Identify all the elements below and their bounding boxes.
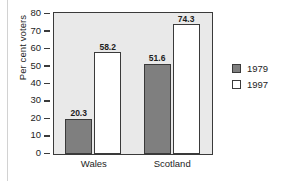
y-axis-tick-label: 50 bbox=[11, 60, 41, 71]
y-axis-tick-mark bbox=[44, 30, 50, 32]
y-axis-tick-label: 40 bbox=[11, 77, 41, 88]
legend-label-1979: 1979 bbox=[247, 63, 268, 74]
figure-left-rule bbox=[7, 0, 8, 181]
x-axis-label-scotland: Scotland bbox=[154, 158, 191, 169]
y-axis-tick-label: 30 bbox=[11, 94, 41, 105]
plot-inner: 20.358.251.674.3 bbox=[54, 13, 212, 154]
bar-scotland-1997: 74.3 bbox=[173, 24, 200, 154]
bar-value-label: 58.2 bbox=[99, 42, 116, 52]
legend-swatch-1979 bbox=[232, 64, 241, 73]
bar-scotland-1979: 51.6 bbox=[144, 64, 171, 154]
legend-label-1997: 1997 bbox=[247, 79, 268, 90]
bar-wales-1979: 20.3 bbox=[65, 119, 92, 154]
y-axis-tick-mark bbox=[44, 48, 50, 50]
bar-value-label: 20.3 bbox=[70, 108, 87, 118]
plot-area: 20.358.251.674.3 bbox=[53, 12, 213, 155]
y-axis-tick-label: 0 bbox=[11, 147, 41, 158]
y-axis-tick-label: 60 bbox=[11, 42, 41, 53]
bar-value-label: 51.6 bbox=[149, 53, 166, 63]
legend-item-1997: 1997 bbox=[232, 76, 268, 92]
y-axis-tick-mark bbox=[44, 153, 50, 155]
bar-wales-1997: 58.2 bbox=[94, 52, 121, 154]
bar-chart-figure: Per cent voters 20.358.251.674.3 0102030… bbox=[0, 0, 295, 181]
legend: 19791997 bbox=[232, 60, 268, 92]
y-axis-tick-label: 70 bbox=[11, 25, 41, 36]
y-axis-tick-label: 20 bbox=[11, 112, 41, 123]
legend-item-1979: 1979 bbox=[232, 60, 268, 76]
legend-swatch-1997 bbox=[232, 80, 241, 89]
x-axis-label-wales: Wales bbox=[81, 158, 107, 169]
y-axis-tick-mark bbox=[44, 118, 50, 120]
y-axis-tick-mark bbox=[44, 65, 50, 67]
y-axis-tick-mark bbox=[44, 83, 50, 85]
y-axis-tick-label: 80 bbox=[11, 7, 41, 18]
y-axis-tick-mark bbox=[44, 13, 50, 15]
bar-value-label: 74.3 bbox=[178, 14, 195, 24]
y-axis-tick-label: 10 bbox=[11, 129, 41, 140]
y-axis-tick-mark bbox=[44, 135, 50, 137]
y-axis-tick-mark bbox=[44, 100, 50, 102]
